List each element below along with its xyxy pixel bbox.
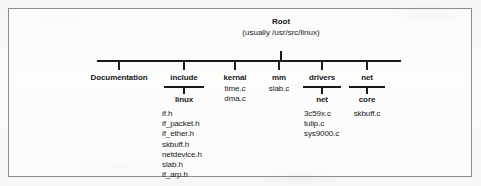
file-item: slab.c xyxy=(269,84,289,94)
file-item: dma.c xyxy=(224,94,245,104)
file-list-include-linux: if.h if_packet.h if_ether.h skbuff.h net… xyxy=(162,109,202,180)
branch-tick-documentation xyxy=(118,60,120,70)
node-net: net xyxy=(361,73,373,83)
node-kernal: kernal xyxy=(224,73,247,83)
branch-tick-drivers xyxy=(321,60,323,70)
file-item: sys9000.c xyxy=(304,129,339,139)
node-net-core: core xyxy=(359,95,376,105)
file-list-drivers-net: 3c59x.c tulip.c sys9000.c xyxy=(304,109,339,140)
source-tree-diagram: Root (usually /usr/src/linux) Documentat… xyxy=(9,9,471,176)
branch-tick-mm xyxy=(278,60,280,70)
subtick-net-core xyxy=(366,86,368,94)
figure-page: Root (usually /usr/src/linux) Documentat… xyxy=(0,0,481,186)
node-mm: mm xyxy=(272,73,286,83)
subtick-drivers-net xyxy=(321,86,323,94)
file-item: if.h xyxy=(162,109,202,119)
file-item: slab.h xyxy=(162,160,202,170)
file-item: if_ether.h xyxy=(162,129,202,139)
figure-frame: Root (usually /usr/src/linux) Documentat… xyxy=(8,8,472,177)
file-item: skbuff.c xyxy=(354,109,381,119)
branch-tick-kernal xyxy=(234,60,236,70)
node-include: include xyxy=(170,73,197,83)
node-include-linux: linux xyxy=(175,95,193,105)
branch-tick-net xyxy=(366,60,368,70)
subtick-include-linux xyxy=(183,86,185,94)
file-item: 3c59x.c xyxy=(304,109,339,119)
file-item: netdevice.h xyxy=(162,150,202,160)
file-item: if_packet.h xyxy=(162,119,202,129)
file-list-net-core: skbuff.c xyxy=(354,109,381,119)
node-drivers-net: net xyxy=(316,95,328,105)
root-label: Root xyxy=(272,17,290,27)
file-list-mm: slab.c xyxy=(269,84,289,94)
node-documentation: Documentation xyxy=(91,73,148,83)
trunk-line xyxy=(97,60,401,62)
branch-tick-include xyxy=(183,60,185,70)
file-item: if_arp.h xyxy=(162,170,202,180)
file-item: tulip.c xyxy=(304,119,339,129)
file-list-kernal: time.c dma.c xyxy=(224,84,245,104)
file-item: time.c xyxy=(224,84,245,94)
root-path-label: (usually /usr/src/linux) xyxy=(242,28,319,38)
file-item: skbuff.h xyxy=(162,140,202,150)
node-drivers: drivers xyxy=(309,73,335,83)
